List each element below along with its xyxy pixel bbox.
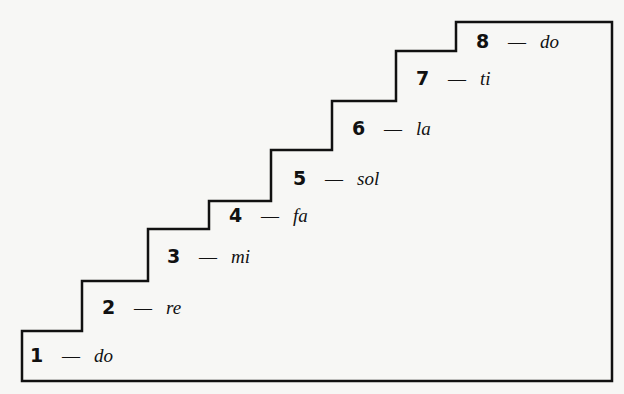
step-3: 3—mi	[167, 244, 250, 268]
step-number: 2	[102, 295, 124, 319]
solfege-syllable: sol	[357, 167, 379, 191]
step-number: 4	[229, 203, 251, 227]
step-number: 8	[476, 29, 498, 53]
step-number: 6	[352, 116, 374, 140]
staircase-outline	[0, 0, 624, 394]
dash: —	[52, 344, 90, 368]
step-7: 7—ti	[416, 66, 491, 90]
solfege-syllable: mi	[231, 245, 250, 269]
dash: —	[189, 245, 227, 269]
solfege-syllable: do	[540, 30, 559, 54]
solfege-syllable: fa	[293, 204, 308, 228]
solfege-syllable: la	[416, 117, 431, 141]
step-5: 5—sol	[293, 166, 379, 190]
solfege-syllable: re	[166, 296, 181, 320]
dash: —	[251, 204, 289, 228]
step-1: 1—do	[30, 343, 113, 367]
dash: —	[438, 67, 476, 91]
dash: —	[124, 296, 162, 320]
solfege-syllable: do	[94, 344, 113, 368]
dash: —	[498, 30, 536, 54]
step-number: 7	[416, 66, 438, 90]
dash: —	[315, 167, 353, 191]
step-number: 5	[293, 166, 315, 190]
step-number: 1	[30, 343, 52, 367]
solfege-syllable: ti	[480, 67, 491, 91]
step-6: 6—la	[352, 116, 431, 140]
step-8: 8—do	[476, 29, 559, 53]
step-4: 4—fa	[229, 203, 308, 227]
step-2: 2—re	[102, 295, 181, 319]
step-number: 3	[167, 244, 189, 268]
dash: —	[374, 117, 412, 141]
